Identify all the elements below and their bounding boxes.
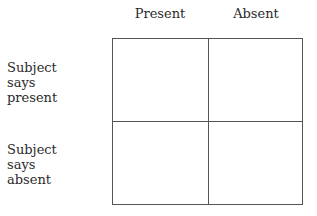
response-matrix-grid (112, 38, 303, 205)
column-header-absent: Absent (208, 6, 304, 21)
row-label-subject-says-absent: Subject says absent (7, 142, 57, 187)
horizontal-divider (113, 121, 302, 122)
column-header-present: Present (112, 6, 208, 21)
row-label-subject-says-present: Subject says present (7, 60, 57, 105)
